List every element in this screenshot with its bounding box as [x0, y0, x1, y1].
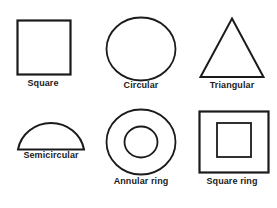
figure-semicircular: Semicircular	[2, 112, 100, 174]
figure-square: Square	[4, 14, 82, 100]
square-icon	[16, 19, 72, 77]
figure-square-ring: Square ring	[188, 106, 276, 200]
annulus-icon	[105, 108, 177, 176]
triangle-icon	[198, 16, 266, 80]
figure-label-circular: Circular	[96, 80, 186, 90]
figure-label-square-ring: Square ring	[188, 176, 276, 186]
square-annulus-icon	[198, 110, 270, 174]
semicircle-icon	[16, 114, 86, 152]
figure-label-annular-ring: Annular ring	[96, 176, 186, 186]
figure-label-square: Square	[4, 78, 82, 88]
shapes-diagram: Square Circular Triangular Semicircular	[0, 0, 277, 208]
figure-label-triangular: Triangular	[188, 80, 276, 90]
figure-circular: Circular	[96, 12, 186, 100]
figure-label-semicircular: Semicircular	[2, 150, 100, 160]
figure-triangular: Triangular	[188, 12, 276, 100]
circle-icon	[105, 16, 177, 82]
figure-annular-ring: Annular ring	[96, 106, 186, 200]
